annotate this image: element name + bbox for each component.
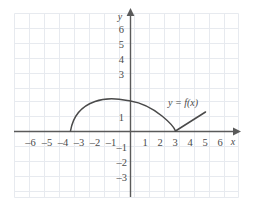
y-tick-label-pos5: 5 — [119, 39, 124, 50]
curve-equation-label: y = f(x) — [167, 97, 199, 109]
x-tick-label-neg1: –1 — [105, 137, 117, 148]
y-tick-label-pos6: 6 — [119, 24, 124, 35]
x-tick-label-neg5: –5 — [41, 137, 53, 148]
y-axis-label: y — [117, 11, 123, 22]
x-tick-label-neg6: –6 — [24, 137, 36, 148]
x-tick-label-neg3: –3 — [73, 137, 85, 148]
x-tick-label-pos4: 4 — [187, 137, 193, 148]
y-tick-label-neg2: –2 — [116, 157, 128, 168]
x-tick-label-pos3: 3 — [172, 137, 177, 148]
y-tick-label-neg1: –1 — [116, 142, 128, 153]
y-tick-label-pos4: 4 — [119, 54, 125, 65]
y-tick-label-neg3: –3 — [116, 172, 128, 183]
x-tick-label-pos6: 6 — [217, 137, 222, 148]
y-tick-label-pos3: 3 — [119, 69, 124, 80]
x-axis-label: x — [230, 136, 236, 147]
x-tick-label-pos2: 2 — [157, 137, 162, 148]
graph-canvas: –6 –5 –4 –3 –2 –1 1 2 3 4 5 6 6 5 4 3 1 … — [0, 0, 256, 213]
x-tick-label-pos1: 1 — [142, 137, 147, 148]
function-graph-figure: –6 –5 –4 –3 –2 –1 1 2 3 4 5 6 6 5 4 3 1 … — [0, 0, 256, 213]
y-tick-label-pos1: 1 — [119, 112, 124, 123]
x-tick-label-pos5: 5 — [202, 137, 207, 148]
x-tick-label-neg4: –4 — [57, 137, 69, 148]
x-tick-label-neg2: –2 — [89, 137, 101, 148]
figure-background — [0, 0, 256, 213]
